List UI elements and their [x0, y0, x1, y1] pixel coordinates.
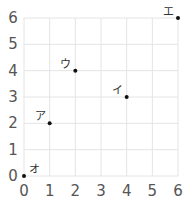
data-point [48, 121, 52, 125]
y-tick-label: 2 [8, 114, 18, 132]
data-point [22, 174, 26, 178]
data-point-label: オ [29, 163, 40, 176]
x-tick-label: 2 [71, 182, 81, 200]
grid [24, 18, 178, 176]
y-tick-label: 6 [8, 9, 18, 27]
y-tick-label: 4 [8, 62, 18, 80]
y-tick-label: 5 [8, 35, 18, 53]
y-tick-label: 3 [8, 88, 18, 106]
x-tick-label: 6 [173, 182, 183, 200]
data-point-label: ア [35, 110, 46, 123]
x-tick-label: 4 [122, 182, 132, 200]
data-point-label: ウ [60, 58, 71, 71]
data-point-label: イ [112, 84, 123, 97]
data-point [176, 16, 180, 20]
x-tick-label: 3 [96, 182, 106, 200]
scatter-chart: 0123456 0123456 アイウエオ [0, 0, 195, 203]
y-tick-label: 0 [8, 167, 18, 185]
data-point [125, 95, 129, 99]
data-point-label: エ [163, 5, 174, 18]
x-tick-label: 1 [45, 182, 55, 200]
data-point [73, 69, 77, 73]
y-tick-label: 1 [8, 141, 18, 159]
y-axis-ticks: 0123456 [8, 9, 18, 185]
x-tick-label: 5 [148, 182, 158, 200]
x-tick-label: 0 [19, 182, 29, 200]
x-axis-ticks: 0123456 [19, 182, 183, 200]
